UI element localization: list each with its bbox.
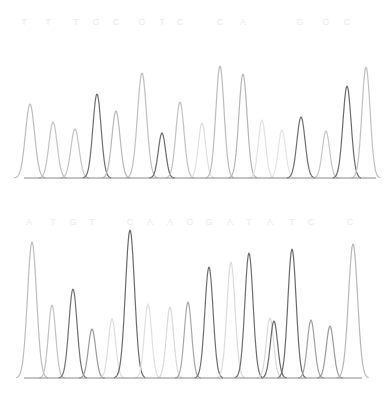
trace-peak: [333, 86, 362, 178]
trace-peak: [114, 230, 146, 378]
trace-plot-upper: [0, 0, 390, 200]
trace-peak: [39, 305, 64, 378]
chromatogram-lower: ATGTCAAGGATATCC: [0, 200, 390, 402]
trace-peak: [39, 122, 68, 178]
chromatogram-upper: TTTGCGTCCAGGC: [0, 0, 390, 200]
trace-peak: [14, 104, 46, 178]
trace-peak: [206, 66, 235, 178]
trace-peak: [61, 129, 90, 178]
trace-peak: [249, 120, 275, 178]
trace-peak: [99, 319, 125, 378]
trace-peak: [229, 74, 258, 178]
trace-peak: [278, 249, 307, 378]
trace-peak: [269, 130, 295, 178]
trace-peak: [59, 289, 88, 378]
trace-peak: [166, 102, 195, 178]
trace-peak: [16, 242, 48, 378]
trace-peak: [195, 267, 224, 378]
trace-peak: [175, 302, 201, 378]
trace-peak: [352, 67, 381, 178]
trace-peak: [83, 94, 112, 178]
trace-peak: [317, 326, 343, 378]
trace-peak: [157, 307, 183, 378]
trace-peak: [135, 304, 161, 378]
trace-peak: [126, 73, 158, 178]
trace-peak: [79, 329, 105, 378]
trace-plot-lower: [0, 200, 390, 402]
trace-peak: [337, 244, 369, 378]
trace-peak: [313, 131, 339, 178]
trace-peak: [287, 117, 316, 178]
